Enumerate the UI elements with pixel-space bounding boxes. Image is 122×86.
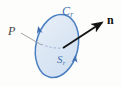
surface-region-label-subscript: r (63, 59, 66, 66)
boundary-curve-label: Cr (62, 5, 73, 17)
stokes-theorem-figure: Cr Sr P n (0, 0, 122, 86)
normal-vector-label: n (107, 14, 114, 26)
surface-region-label: Sr (57, 54, 65, 65)
figure-canvas (0, 0, 122, 86)
surface-disk-fill (29, 10, 84, 82)
boundary-curve-label-subscript: r (70, 10, 73, 19)
surface-disk (29, 10, 84, 82)
point-label: P (8, 25, 15, 37)
surface-region-label-base: S (57, 53, 63, 65)
boundary-curve-label-base: C (62, 4, 70, 18)
